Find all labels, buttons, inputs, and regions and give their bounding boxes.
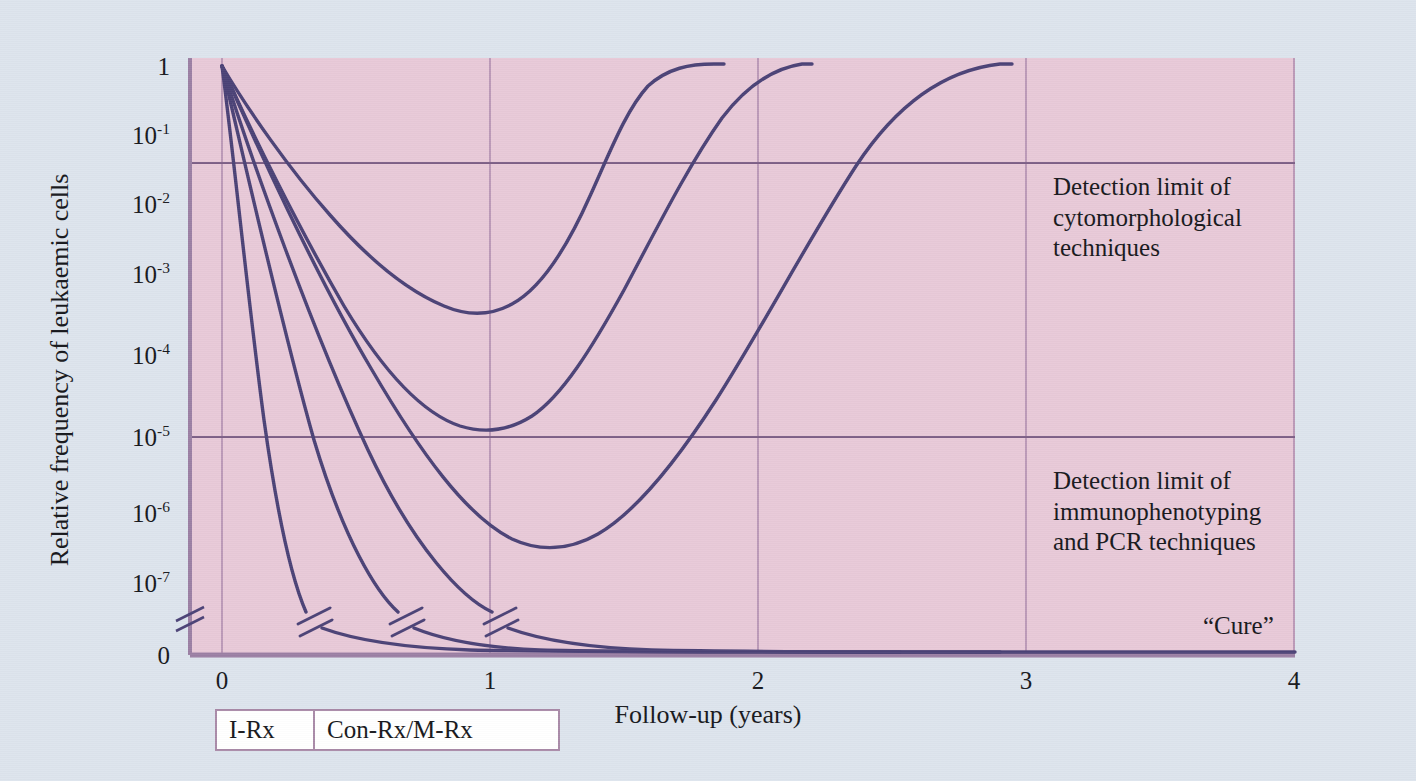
y-tick-1e-3: 10-3 — [98, 262, 170, 287]
figure-container: 1 10-1 10-2 10-3 10-4 10-5 10-6 10-7 0 0… — [0, 0, 1416, 781]
y-tick-1e-7: 10-7 — [98, 571, 170, 596]
treatment-timeline-bar: I-Rx Con-Rx/M-Rx — [215, 709, 560, 751]
annotation-cytomorphology-line-1: Detection limit of — [1053, 172, 1242, 203]
y-tick-1e-2: 10-2 — [98, 192, 170, 217]
x-tick-4: 4 — [1288, 668, 1301, 693]
y-tick-1e-5: 10-5 — [98, 425, 170, 450]
annotation-immunophenotyping: Detection limit of immunophenotyping and… — [1053, 466, 1261, 558]
x-tick-2: 2 — [752, 668, 765, 693]
chart-canvas — [0, 0, 1416, 781]
y-tick-1e-1: 10-1 — [98, 123, 170, 148]
x-tick-3: 3 — [1020, 668, 1033, 693]
treatment-segment-consolidation: Con-Rx/M-Rx — [315, 711, 558, 749]
y-axis-title: Relative frequency of leukaemic cells — [45, 140, 75, 600]
y-tick-1e-6: 10-6 — [98, 501, 170, 526]
annotation-cytomorphology-line-3: techniques — [1053, 233, 1242, 264]
y-tick-1e-4: 10-4 — [98, 343, 170, 368]
x-tick-1: 1 — [484, 668, 497, 693]
annotation-cytomorphology: Detection limit of cytomorphological tec… — [1053, 172, 1242, 264]
annotation-immunophenotyping-line-1: Detection limit of — [1053, 466, 1261, 497]
annotation-immunophenotyping-line-3: and PCR techniques — [1053, 527, 1261, 558]
annotation-cure: “Cure” — [1203, 612, 1274, 640]
y-tick-0: 0 — [118, 643, 170, 668]
treatment-segment-induction: I-Rx — [217, 711, 315, 749]
x-tick-0: 0 — [216, 668, 229, 693]
y-tick-1: 1 — [118, 54, 170, 79]
x-axis-title: Follow-up (years) — [0, 700, 1416, 730]
annotation-cytomorphology-line-2: cytomorphological — [1053, 203, 1242, 234]
annotation-immunophenotyping-line-2: immunophenotyping — [1053, 497, 1261, 528]
